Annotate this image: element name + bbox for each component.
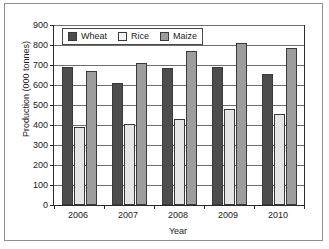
y-tick-label: 300 <box>8 141 48 150</box>
bar-maize-2007 <box>136 63 147 205</box>
x-tick-mark <box>54 205 55 209</box>
bar-maize-2008 <box>186 51 197 205</box>
y-tick-mark <box>50 65 54 66</box>
gridline <box>54 45 304 46</box>
y-tick-label: 0 <box>8 201 48 210</box>
figure-frame: Production (000 tonnes) 0100200300400500… <box>4 3 323 241</box>
y-tick-label: 500 <box>8 101 48 110</box>
y-tick-label: 900 <box>8 21 48 30</box>
x-tick-label-2009: 2009 <box>203 210 253 220</box>
x-tick-mark <box>104 205 105 209</box>
y-tick-label: 200 <box>8 161 48 170</box>
bar-rice-2008 <box>174 119 185 205</box>
y-tick-mark <box>50 185 54 186</box>
legend-entry-rice[interactable]: Rice <box>118 32 149 41</box>
bar-wheat-2009 <box>212 67 223 205</box>
bar-rice-2010 <box>274 114 285 205</box>
y-tick-mark <box>50 125 54 126</box>
x-tick-mark <box>304 205 305 209</box>
bar-rice-2009 <box>224 109 235 205</box>
x-axis-title: Year <box>53 226 303 236</box>
bar-chart: Production (000 tonnes) 0100200300400500… <box>5 4 322 240</box>
bar-rice-2006 <box>74 127 85 205</box>
gridline <box>54 25 304 26</box>
legend-swatch-icon <box>160 32 169 41</box>
y-tick-label: 800 <box>8 41 48 50</box>
legend-label: Rice <box>131 32 149 41</box>
y-tick-label: 600 <box>8 81 48 90</box>
legend-entry-maize[interactable]: Maize <box>160 32 197 41</box>
x-tick-label-2006: 2006 <box>53 210 103 220</box>
gridline <box>54 65 304 66</box>
bar-wheat-2008 <box>162 68 173 205</box>
bar-maize-2009 <box>236 43 247 205</box>
legend-label: Wheat <box>81 32 107 41</box>
bar-maize-2010 <box>286 48 297 205</box>
y-tick-mark <box>50 145 54 146</box>
legend-swatch-icon <box>68 32 77 41</box>
legend-entry-wheat[interactable]: Wheat <box>68 32 107 41</box>
plot-area: 0100200300400500600700800900 <box>53 25 305 206</box>
bar-wheat-2007 <box>112 83 123 205</box>
legend-label: Maize <box>173 32 197 41</box>
bar-wheat-2010 <box>262 74 273 205</box>
bar-wheat-2006 <box>62 67 73 205</box>
x-tick-label-2010: 2010 <box>253 210 303 220</box>
y-tick-label: 400 <box>8 121 48 130</box>
y-tick-mark <box>50 25 54 26</box>
y-tick-mark <box>50 85 54 86</box>
x-tick-label-2007: 2007 <box>103 210 153 220</box>
x-tick-mark <box>254 205 255 209</box>
y-tick-label: 700 <box>8 61 48 70</box>
bar-maize-2006 <box>86 71 97 205</box>
chart-legend: WheatRiceMaize <box>62 28 203 45</box>
y-tick-label: 100 <box>8 181 48 190</box>
y-tick-mark <box>50 45 54 46</box>
legend-swatch-icon <box>118 32 127 41</box>
y-tick-mark <box>50 165 54 166</box>
x-tick-mark <box>154 205 155 209</box>
bar-rice-2007 <box>124 124 135 205</box>
x-tick-mark <box>204 205 205 209</box>
y-tick-mark <box>50 105 54 106</box>
x-tick-label-2008: 2008 <box>153 210 203 220</box>
